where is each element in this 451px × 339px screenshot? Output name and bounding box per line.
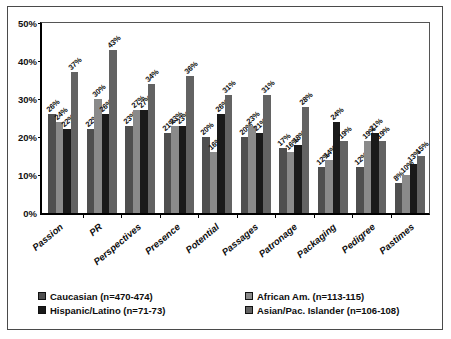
bar-group: 8%10%13%15% [391,23,430,213]
x-axis-tick-mark [314,213,315,218]
y-axis-tick-label: 30% [18,94,37,105]
bar-value-label: 20% [199,120,216,136]
bar: 37% [71,72,78,213]
bar: 21% [164,133,171,213]
bar: 10% [402,175,409,213]
legend-label: Asian/Pac. Islander (n=106-108) [257,305,399,316]
bar: 22% [87,129,94,213]
bar: 8% [395,183,402,213]
y-axis-tick-label: 50% [18,18,37,29]
legend-item: African Am. (n=113-115) [245,291,433,302]
bar-value-label: 31% [221,79,238,95]
legend-item: Hispanic/Latino (n=71-73) [38,305,245,316]
legend-item: Asian/Pac. Islander (n=106-108) [245,305,433,316]
x-axis-tick-mark [198,213,199,218]
bar-group: 26%24%22%37% [44,23,83,213]
bar: 22% [63,129,70,213]
x-axis-tick-mark [275,213,276,218]
x-axis-tick-mark [83,213,84,218]
legend-swatch [245,292,253,300]
bar: 21% [371,133,378,213]
bar: 23% [171,126,178,213]
bar-group: 20%16%26%31% [198,23,237,213]
bar: 16% [287,152,294,213]
bar-group: 22%30%26%43% [83,23,122,213]
bar: 34% [148,84,155,213]
bar-value-label: 31% [259,79,276,95]
bar: 14% [325,160,332,213]
bar: 19% [340,141,347,213]
legend-item: Caucasian (n=470-474) [38,291,245,302]
x-axis-label-slot: Pastimes [391,219,430,279]
bar: 26% [217,114,224,213]
x-axis-tick-mark [121,213,122,218]
x-axis-label-slot: Passion [40,219,79,279]
y-axis-tick-label: 0% [23,208,37,219]
legend-label: African Am. (n=113-115) [257,291,364,302]
bar: 31% [263,95,270,213]
bar: 31% [225,95,232,213]
bar-group: 23%27%27%34% [121,23,160,213]
bar: 27% [133,110,140,213]
bar: 23% [125,126,132,213]
chart-legend: Caucasian (n=470-474)African Am. (n=113-… [38,289,433,317]
bar: 26% [48,114,55,213]
x-axis-tick-mark [352,213,353,218]
bar-group: 17%16%18%28% [275,23,314,213]
bar: 43% [109,50,116,213]
bar: 30% [94,99,101,213]
bar-value-label: 43% [105,33,122,49]
bar: 21% [256,133,263,213]
bar: 24% [56,122,63,213]
bar-value-label: 24% [329,105,346,121]
y-axis-tick-mark [38,61,42,62]
bar-value-label: 28% [298,90,315,106]
bar-value-label: 36% [182,60,199,76]
bar: 18% [294,145,301,213]
y-axis-tick-label: 20% [18,132,37,143]
y-axis-tick-mark [38,175,42,176]
bar-group: 12%14%24%19% [314,23,353,213]
bar-value-label: 30% [91,82,108,98]
x-axis-labels: PassionPRPerspectivesPresencePotentialPa… [40,219,430,279]
bar: 27% [140,110,147,213]
bar: 23% [179,126,186,213]
legend-label: Hispanic/Latino (n=71-73) [50,305,165,316]
bar-value-label: 37% [67,56,84,72]
bar: 12% [318,167,325,213]
bar-group: 12%19%21%19% [352,23,391,213]
y-axis-tick-mark [38,99,42,100]
bar-chart-figure: 0%10%20%30%40%50% 26%24%22%37%22%30%26%4… [0,0,451,339]
bar-value-label: 34% [144,67,161,83]
x-axis-tick-mark [391,213,392,218]
plot-area: 0%10%20%30%40%50% 26%24%22%37%22%30%26%4… [40,22,430,215]
legend-swatch [245,306,253,314]
bar: 15% [417,156,424,213]
bar: 26% [102,114,109,213]
bar: 19% [364,141,371,213]
bar: 13% [410,164,417,213]
bar: 36% [186,76,193,213]
x-axis-tick-mark [237,213,238,218]
bar: 20% [241,137,248,213]
y-axis-tick-label: 40% [18,56,37,67]
legend-label: Caucasian (n=470-474) [50,291,153,302]
bar: 17% [279,148,286,213]
bar: 23% [248,126,255,213]
legend-swatch [38,292,46,300]
legend-swatch [38,306,46,314]
bar-group: 21%23%23%36% [160,23,199,213]
bar: 19% [379,141,386,213]
x-axis-category-label: PR [87,221,104,238]
y-axis-tick-label: 10% [18,170,37,181]
bar: 12% [356,167,363,213]
bar: 28% [302,107,309,213]
bar-groups: 26%24%22%37%22%30%26%43%23%27%27%34%21%2… [44,23,429,213]
x-axis-tick-mark [160,213,161,218]
y-axis-tick-mark [38,23,42,24]
y-axis-tick-mark [38,137,42,138]
bar: 16% [210,152,217,213]
bar-group: 20%23%21%31% [237,23,276,213]
